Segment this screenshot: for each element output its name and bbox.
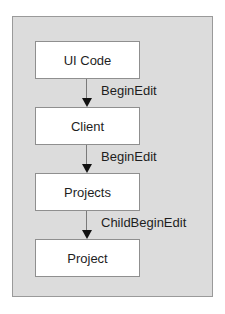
node-projects: Projects xyxy=(35,173,140,211)
arrow-down-icon xyxy=(82,98,92,107)
node-ui-code: UI Code xyxy=(35,41,140,79)
edge-label: BeginEdit xyxy=(101,149,157,164)
arrow-down-icon xyxy=(82,164,92,173)
edge-line-projects-to-project xyxy=(86,211,87,231)
node-client: Client xyxy=(35,107,140,145)
node-label: Project xyxy=(67,251,107,266)
node-label: Client xyxy=(71,119,104,134)
arrow-down-icon xyxy=(82,230,92,239)
node-label: Projects xyxy=(64,185,111,200)
edge-line-ui-code-to-client xyxy=(86,79,87,99)
edge-label: BeginEdit xyxy=(101,83,157,98)
node-project: Project xyxy=(35,239,140,277)
edge-label: ChildBeginEdit xyxy=(101,215,186,230)
edge-line-client-to-projects xyxy=(86,145,87,165)
node-label: UI Code xyxy=(64,53,112,68)
